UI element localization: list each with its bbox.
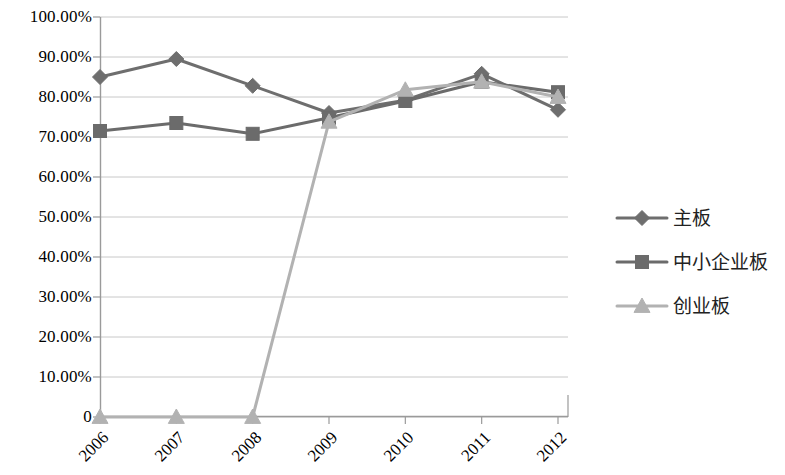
chart-legend: 主板中小企业板创业板 [615,196,785,328]
legend-item[interactable]: 主板 [615,196,785,240]
legend-label: 主板 [673,207,711,229]
x-axis-tick-label: 2006 [30,429,112,475]
x-axis-tick-label: 2011 [412,429,494,475]
legend-key [615,295,669,317]
diamond-marker-icon [635,211,650,226]
chart-container: 100.00%90.00%80.00%70.00%60.00%50.00%40.… [0,0,785,475]
x-axis-tick-label: 2010 [336,429,418,475]
diamond-marker-icon [615,207,669,229]
legend-label: 创业板 [673,295,730,317]
x-axis-tick-label: 2007 [107,429,189,475]
x-axis-tick-label: 2012 [488,429,570,475]
square-marker-icon [615,251,669,273]
legend-item[interactable]: 创业板 [615,284,785,328]
triangle-marker-icon [615,295,669,317]
legend-key [615,251,669,273]
legend-label: 中小企业板 [673,251,768,273]
x-axis-tick-label: 2008 [183,429,265,475]
legend-item[interactable]: 中小企业板 [615,240,785,284]
square-marker-icon [636,256,649,269]
x-axis-tick-label: 2009 [259,429,341,475]
legend-key [615,207,669,229]
